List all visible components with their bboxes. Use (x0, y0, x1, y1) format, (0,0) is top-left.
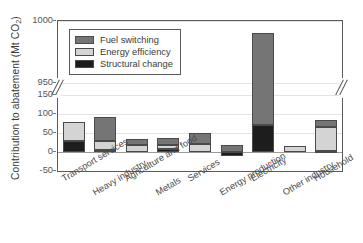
legend-label: Energy efficiency (100, 48, 171, 57)
y-tick-mark (53, 170, 56, 171)
legend-item[interactable]: Fuel switching (75, 34, 173, 46)
bar-segment[interactable] (315, 127, 337, 151)
bar-segment[interactable] (126, 145, 148, 152)
bar-segment[interactable] (63, 122, 85, 141)
bar[interactable] (315, 21, 337, 171)
bar-segment[interactable] (252, 125, 274, 152)
y-tick-label: 100 (37, 109, 53, 118)
legend-item[interactable]: Energy efficiency (75, 46, 173, 58)
y-tick-mark (53, 82, 56, 83)
x-axis-tick-labels: Transport servicesHeavy industryAgricult… (0, 172, 363, 243)
legend-swatch (75, 48, 94, 56)
bar[interactable] (221, 21, 243, 171)
bar-segment[interactable] (315, 120, 337, 127)
y-tick-label: 1000 (32, 16, 53, 25)
legend-label: Structural change (100, 60, 173, 69)
y-axis-title-subscript: 2 (14, 20, 23, 24)
y-tick-mark (53, 20, 56, 21)
bar[interactable] (252, 21, 274, 171)
bar-segment[interactable] (284, 146, 306, 152)
y-tick-mark (53, 113, 56, 114)
legend-item[interactable]: Structural change (75, 58, 173, 70)
legend-swatch (75, 36, 94, 44)
y-tick-label: 50 (43, 128, 53, 137)
abatement-contribution-chart: Contribution to abatement (Mt CO2) 10009… (0, 0, 363, 243)
bar[interactable] (284, 21, 306, 171)
axis-break-left-icon (51, 78, 65, 98)
y-tick-mark (53, 151, 56, 152)
y-axis-title-text: Contribution to abatement (Mt CO (10, 24, 21, 180)
legend: Fuel switchingEnergy efficiencyStructura… (69, 29, 181, 75)
bar[interactable] (189, 21, 211, 171)
y-tick-mark (53, 94, 56, 95)
legend-label: Fuel switching (100, 36, 159, 45)
bar-segment[interactable] (221, 145, 243, 152)
y-axis-title: Contribution to abatement (Mt CO2) (10, 10, 24, 186)
axis-break-right-icon (335, 78, 349, 98)
bar-segment[interactable] (94, 117, 116, 142)
y-tick-mark (53, 132, 56, 133)
bar-segment-negative[interactable] (221, 152, 243, 156)
bar-segment[interactable] (63, 141, 85, 152)
x-tick-label: Metals (154, 175, 182, 198)
bar-segment[interactable] (315, 151, 337, 153)
bar-segment[interactable] (252, 33, 274, 124)
legend-swatch (75, 60, 94, 68)
